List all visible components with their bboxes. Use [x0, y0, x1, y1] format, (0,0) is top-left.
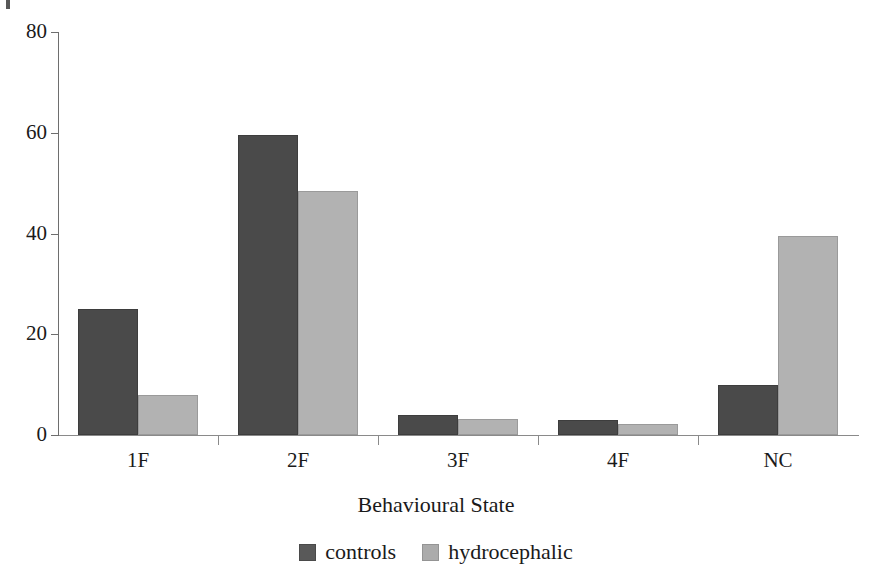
- y-axis-tick-label: 80: [3, 21, 47, 42]
- chart-legend: controls hydrocephalic: [0, 540, 872, 564]
- x-axis-label-nc: NC: [698, 448, 858, 472]
- bar-2f-hydrocephalic: [298, 191, 358, 435]
- bar-3f-hydrocephalic: [458, 419, 518, 435]
- grouped-bar-chart: 020406080 1F2F3F4FNC Behavioural State c…: [0, 0, 872, 582]
- x-axis-title: Behavioural State: [0, 492, 872, 518]
- bar-1f-hydrocephalic: [138, 395, 198, 435]
- bar-4f-controls: [558, 420, 618, 435]
- y-axis-tick-label-wrap: 80: [0, 21, 47, 42]
- y-axis-tick-label: 0: [3, 424, 47, 445]
- y-axis-tick-label-wrap: 60: [0, 122, 47, 143]
- legend-label-hydrocephalic: hydrocephalic: [448, 540, 573, 564]
- bar-1f-controls: [78, 309, 138, 435]
- x-axis-tick: [538, 436, 539, 445]
- bar-nc-hydrocephalic: [778, 236, 838, 435]
- y-axis-tick-label-wrap: 0: [0, 424, 47, 445]
- x-axis-label-1f: 1F: [58, 448, 218, 472]
- y-axis-tick: [51, 435, 59, 436]
- y-axis-tick-label: 40: [3, 223, 47, 244]
- x-axis-label-2f: 2F: [218, 448, 378, 472]
- x-axis-label-4f: 4F: [538, 448, 698, 472]
- legend-label-controls: controls: [325, 540, 396, 564]
- plot-area: [58, 32, 858, 435]
- x-axis-label-3f: 3F: [378, 448, 538, 472]
- legend-item-controls: controls: [299, 540, 396, 564]
- legend-item-hydrocephalic: hydrocephalic: [422, 540, 573, 564]
- y-axis-tick-label: 60: [3, 122, 47, 143]
- bar-3f-controls: [398, 415, 458, 435]
- bar-nc-controls: [718, 385, 778, 435]
- x-axis-tick: [698, 436, 699, 445]
- y-axis-tick-label: 20: [3, 323, 47, 344]
- y-axis-tick-label-wrap: 20: [0, 323, 47, 344]
- controls-swatch-icon: [299, 544, 316, 561]
- bar-4f-hydrocephalic: [618, 424, 678, 435]
- y-axis-tick-label-wrap: 40: [0, 223, 47, 244]
- x-axis-tick: [378, 436, 379, 445]
- hydrocephalic-swatch-icon: [422, 544, 439, 561]
- bar-2f-controls: [238, 135, 298, 435]
- x-axis-tick: [218, 436, 219, 445]
- x-axis-line: [58, 435, 859, 436]
